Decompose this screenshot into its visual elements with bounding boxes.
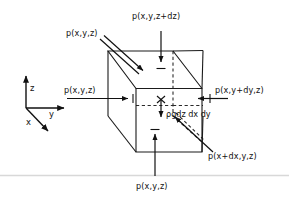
body-force-label: ρgdz dx dy: [166, 110, 211, 118]
figure-canvas: [0, 0, 289, 198]
bottom-face-force-arrow: [151, 130, 160, 177]
bottom-face-label: p(x,y,z): [136, 182, 168, 190]
left-face-force-arrow: [67, 94, 133, 103]
x-axis-label: x: [26, 118, 31, 126]
box-front-face: [136, 89, 202, 153]
front-face-label: p(x+dx,y,z): [208, 152, 257, 160]
top-face-label: p(x,y,z+dz): [132, 12, 180, 20]
box-hidden-edges: [136, 51, 205, 143]
back-top-left-label: p(x,y,z): [66, 29, 98, 37]
top-face-force-arrow: [157, 31, 166, 69]
body-force-arrow: [157, 96, 165, 117]
box-right-face: [173, 51, 203, 153]
box-left-face: [108, 51, 136, 152]
pressure-element-figure: p(x,y,z+dz) p(x,y,z) p(x,y,z) p(x,y+dy,z…: [0, 0, 289, 198]
y-axis-label: y: [49, 110, 54, 118]
left-face-label: p(x,y,z): [64, 86, 96, 94]
box-top-face: [108, 51, 202, 89]
z-axis-label: z: [30, 84, 34, 92]
front-face-force-arrow: [175, 117, 213, 152]
right-face-label: p(x,y+dy,z): [215, 86, 264, 94]
